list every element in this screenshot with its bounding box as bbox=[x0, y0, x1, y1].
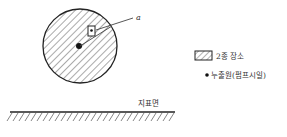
ground-hatch-stroke bbox=[127, 113, 132, 121]
ground-hatch-stroke bbox=[61, 113, 66, 121]
ground-hatch-stroke bbox=[139, 113, 144, 121]
ground-hatch-stroke bbox=[13, 113, 18, 121]
legend-source-label: 누출원(펌프시일) bbox=[211, 70, 266, 80]
legend-source-dot bbox=[205, 73, 209, 77]
legend-zone-label: 2종 장소 bbox=[216, 51, 244, 61]
ground-label: 지표면 bbox=[138, 98, 159, 108]
ground-hatch-stroke bbox=[91, 113, 96, 121]
ground-hatch-stroke bbox=[25, 113, 30, 121]
ground-hatch-stroke bbox=[121, 113, 126, 121]
leak-source-dot bbox=[76, 43, 82, 49]
ground-hatch-stroke bbox=[151, 113, 156, 121]
ground-hatch-stroke bbox=[109, 113, 114, 121]
ground-hatch-stroke bbox=[49, 113, 54, 121]
ground-hatch bbox=[7, 113, 174, 121]
ground-hatch-stroke bbox=[157, 113, 162, 121]
ground-hatch-stroke bbox=[7, 113, 12, 121]
ground-hatch-stroke bbox=[97, 113, 102, 121]
ground-hatch-stroke bbox=[37, 113, 42, 121]
ground-hatch-stroke bbox=[43, 113, 48, 121]
ground-hatch-stroke bbox=[145, 113, 150, 121]
label-a: a bbox=[136, 13, 141, 22]
ground-hatch-stroke bbox=[133, 113, 138, 121]
pump-seal-dot bbox=[90, 29, 93, 32]
ground-hatch-stroke bbox=[73, 113, 78, 121]
ground-hatch-stroke bbox=[115, 113, 120, 121]
hazardous-area-diagram: a 2종 장소 누출원(펌프시일) 지표면 bbox=[0, 0, 287, 137]
ground-hatch-stroke bbox=[31, 113, 36, 121]
ground-hatch-stroke bbox=[103, 113, 108, 121]
ground-hatch-stroke bbox=[169, 113, 174, 121]
legend: 2종 장소 누출원(펌프시일) bbox=[195, 51, 266, 80]
ground-hatch-stroke bbox=[67, 113, 72, 121]
legend-zone-swatch bbox=[195, 51, 212, 60]
ground-hatch-stroke bbox=[55, 113, 60, 121]
ground-hatch-stroke bbox=[85, 113, 90, 121]
ground-hatch-stroke bbox=[19, 113, 24, 121]
ground-hatch-stroke bbox=[163, 113, 168, 121]
ground-hatch-stroke bbox=[79, 113, 84, 121]
